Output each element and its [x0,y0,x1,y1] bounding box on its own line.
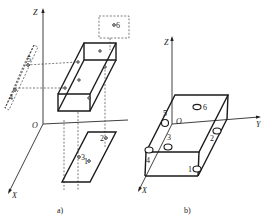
caption-b: b) [184,206,191,215]
bottom-plane-xy [62,132,116,182]
pin-5-label: 5 [163,109,167,118]
figure-a: Z O X [5,8,129,215]
x-axis [9,124,43,192]
point-1 [88,160,91,163]
top-plane-xy [99,16,129,38]
pin-2-label: 2 [210,134,214,143]
x-axis-label: X [11,191,18,200]
z-axis-arrow-icon [170,36,173,41]
locating-pins-b: 1 2 3 4 5 6 [145,103,221,174]
point-5-label: 5 [27,55,31,64]
z-axis-label: Z [33,8,38,17]
y-axis-arrow-icon [256,116,261,119]
pin-3 [164,144,172,150]
pin-1 [193,166,201,172]
pin-6 [193,104,201,109]
point-6-label: 6 [116,21,120,30]
workpiece-box-a [58,43,116,111]
origin-label-b: O [176,117,182,126]
z-axis-arrow-icon [41,8,44,13]
pin-3-label: 3 [167,133,171,142]
point-2-label: 2 [100,134,104,143]
box-point [104,66,106,68]
caption-a: a) [57,206,64,215]
box-point [77,61,79,63]
point-4 [14,89,17,92]
pin-4 [145,147,153,153]
workpiece-box-b [145,95,228,176]
pin-5 [162,120,169,127]
point-4-label: 4 [9,93,13,102]
box-point [99,50,101,52]
box-point [88,97,90,99]
origin-label: O [32,121,38,130]
pin-1-label: 1 [188,165,192,174]
point-3-label: 3 [81,153,85,162]
point-3 [78,156,81,159]
six-point-locating-diagram: Z O X [0,0,263,220]
pin-2 [213,128,221,134]
pin-4-label: 4 [146,156,150,165]
box-point [64,87,66,89]
y-axis-label-b: Y [256,120,262,129]
point-2 [105,137,108,140]
y-axis [43,120,128,124]
box-point [78,79,80,81]
pin-6-label: 6 [203,103,207,112]
z-axis-label-b: Z [164,38,169,47]
x-axis-label-b: X [141,186,148,195]
point-6 [113,24,116,27]
point-5 [27,64,30,67]
figure-b: Z Y X O 1 2 3 4 [138,36,262,215]
